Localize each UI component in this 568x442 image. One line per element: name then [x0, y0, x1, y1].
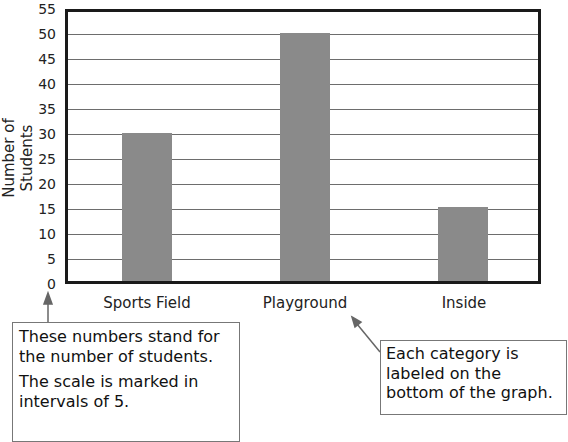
scale-note-line1: These numbers stand for the number of st…	[19, 327, 233, 366]
scale-note: These numbers stand for the number of st…	[12, 322, 240, 442]
scale-note-line2: The scale is marked in intervals of 5.	[19, 372, 233, 411]
category-note-line1: Each category is labeled on the bottom o…	[386, 344, 562, 403]
category-note: Each category is labeled on the bottom o…	[380, 340, 567, 415]
